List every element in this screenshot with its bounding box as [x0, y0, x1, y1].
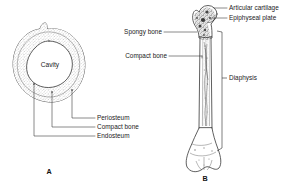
cavity-label: Cavity	[41, 61, 60, 69]
label-spongy-bone: Spongy bone	[124, 28, 162, 36]
label-epiphyseal-plate: Epiphyseal plate	[229, 14, 277, 22]
label-diaphysis: Diaphysis	[229, 74, 257, 82]
label-articular-cartilage: Articular cartilage	[229, 4, 279, 12]
bone-diagram-figure: Cavity Periosteum Compact bone Endosteum…	[0, 0, 301, 186]
label-endosteum: Endosteum	[97, 132, 130, 139]
label-compact-bone-a: Compact bone	[97, 123, 139, 131]
label-periosteum: Periosteum	[97, 114, 130, 121]
panel-b-letter: B	[202, 174, 207, 183]
label-compact-bone-b: Compact bone	[125, 52, 167, 60]
panel-a-letter: A	[46, 167, 51, 176]
figure-canvas: Cavity Periosteum Compact bone Endosteum…	[0, 0, 301, 186]
